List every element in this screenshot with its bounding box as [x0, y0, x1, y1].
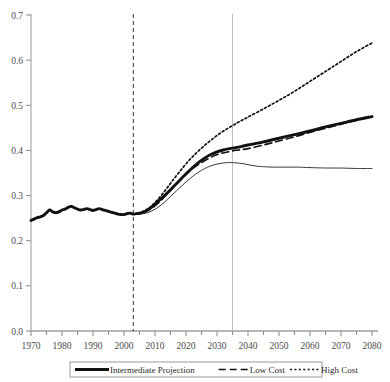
x-tick-label: 2080: [363, 341, 382, 351]
legend-label-intermediate-projection: Intermediate Projection: [110, 365, 195, 375]
x-tick-label: 1990: [84, 341, 103, 351]
y-tick-label: 0.0: [11, 327, 23, 337]
y-tick-label: 0.2: [11, 236, 23, 246]
series-line-low-cost-alternate: [133, 163, 372, 215]
series-line-intermediate-projection: [31, 117, 372, 221]
axes-layer: [31, 14, 378, 331]
legend-label-high-cost: High Cost: [321, 365, 358, 375]
y-axis-ticks: 0.00.10.20.30.40.50.60.7: [11, 11, 31, 337]
x-tick-label: 1980: [53, 341, 72, 351]
y-tick-label: 0.5: [11, 101, 23, 111]
chart-figure: 0.00.10.20.30.40.50.60.7 197019801990200…: [0, 0, 390, 382]
x-tick-label: 2010: [146, 341, 165, 351]
series-line-high-cost: [133, 43, 372, 214]
x-tick-label: 2000: [115, 341, 134, 351]
x-tick-label: 1970: [22, 341, 41, 351]
y-tick-label: 0.7: [11, 11, 23, 21]
y-tick-label: 0.1: [11, 281, 23, 291]
legend-label-low-cost: Low Cost: [250, 365, 286, 375]
x-tick-label: 2060: [301, 341, 320, 351]
data-series-layer: [31, 43, 372, 220]
y-tick-label: 0.4: [11, 146, 23, 156]
x-axis-ticks: 1970198019902000201020202030204020502060…: [22, 331, 382, 351]
chart-legend: Intermediate ProjectionLow CostHigh Cost: [70, 362, 358, 377]
y-tick-label: 0.6: [11, 56, 23, 66]
x-tick-label: 2050: [270, 341, 289, 351]
line-chart-canvas: 0.00.10.20.30.40.50.60.7 197019801990200…: [0, 0, 390, 382]
y-tick-label: 0.3: [11, 191, 23, 201]
x-tick-label: 2070: [332, 341, 351, 351]
annotation-lines: [133, 14, 232, 331]
x-tick-label: 2040: [239, 341, 258, 351]
x-tick-label: 2030: [208, 341, 227, 351]
x-tick-label: 2020: [177, 341, 196, 351]
